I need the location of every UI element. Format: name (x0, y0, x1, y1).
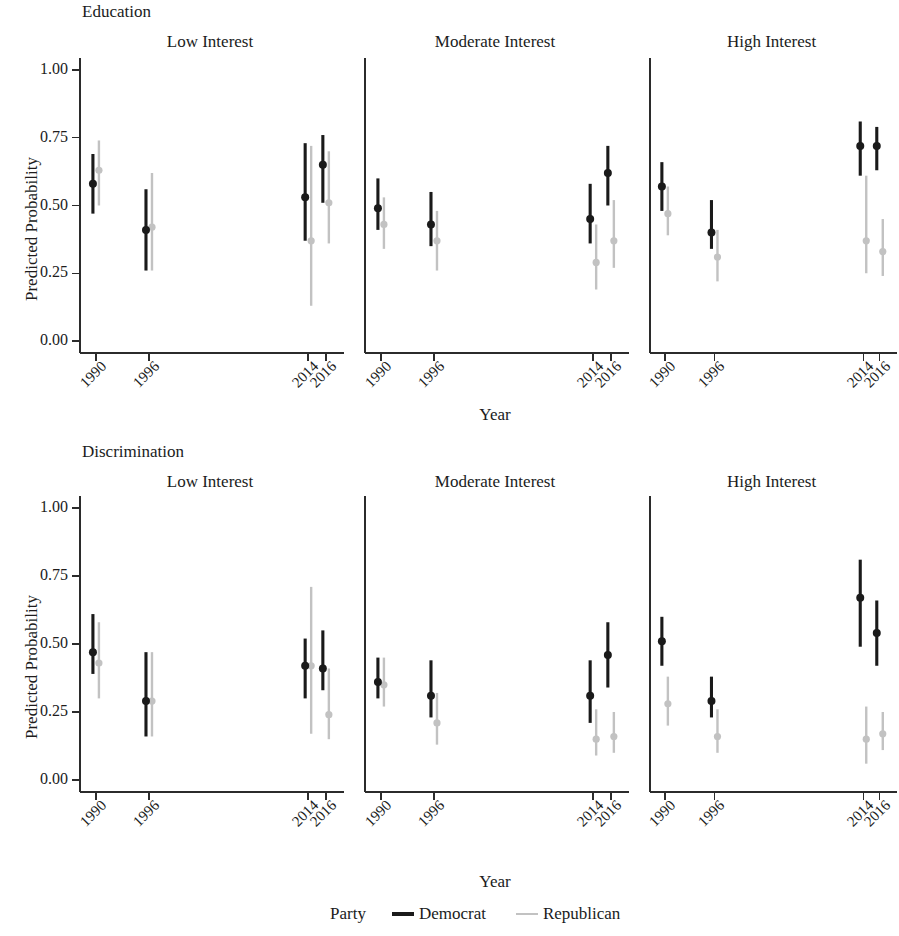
point-marker-republican-2014 (863, 736, 870, 743)
point-marker-democrat-1996 (427, 220, 435, 228)
point-marker-republican-1990 (664, 700, 671, 707)
point-marker-democrat-1996 (142, 697, 150, 705)
legend: PartyDemocratRepublican (330, 904, 650, 924)
point-marker-democrat-1990 (658, 183, 666, 191)
legend-entry-republican[interactable]: Republican (516, 904, 620, 924)
series-democrat (89, 614, 327, 736)
point-marker-democrat-2014 (301, 193, 309, 201)
figure-canvas: EducationDiscriminationLow InterestModer… (0, 0, 899, 936)
series-democrat (658, 121, 881, 248)
legend-line-icon-republican (516, 913, 538, 915)
point-marker-democrat-2014 (856, 594, 864, 602)
series-republican (95, 140, 332, 305)
series-republican (95, 587, 332, 739)
series-democrat (89, 135, 327, 271)
point-marker-democrat-2016 (319, 161, 327, 169)
point-marker-republican-1996 (433, 237, 440, 244)
panel-data-education-moderate-interest (374, 146, 618, 290)
series-republican (664, 176, 886, 282)
point-marker-republican-1990 (664, 210, 671, 217)
panel-data-discrimination-low-interest (89, 587, 333, 739)
legend-label-republican: Republican (543, 904, 620, 924)
panel-data-education-low-interest (89, 135, 333, 306)
point-marker-democrat-1996 (707, 229, 715, 237)
point-marker-democrat-1996 (427, 692, 435, 700)
series-democrat (374, 146, 612, 246)
point-marker-republican-1990 (380, 221, 387, 228)
point-marker-republican-2016 (879, 248, 886, 255)
point-marker-democrat-1990 (374, 204, 382, 212)
point-marker-democrat-2016 (873, 629, 881, 637)
point-marker-republican-2014 (593, 259, 600, 266)
point-marker-democrat-2016 (604, 169, 612, 177)
point-marker-democrat-1990 (374, 678, 382, 686)
point-marker-democrat-1990 (89, 648, 97, 656)
point-marker-democrat-2014 (301, 662, 309, 670)
point-marker-democrat-1996 (142, 226, 150, 234)
point-marker-democrat-2016 (873, 142, 881, 150)
plot-area (0, 0, 899, 936)
point-marker-republican-2016 (325, 711, 332, 718)
point-marker-republican-1996 (433, 719, 440, 726)
panel-data-education-high-interest (658, 121, 886, 281)
series-republican (380, 658, 617, 756)
point-marker-republican-2016 (879, 730, 886, 737)
legend-label-democrat: Democrat (419, 904, 486, 924)
series-republican (664, 677, 886, 764)
point-marker-republican-2016 (325, 199, 332, 206)
point-marker-democrat-1990 (658, 637, 666, 645)
point-marker-democrat-1990 (89, 180, 97, 188)
series-democrat (658, 560, 881, 718)
point-marker-republican-1996 (714, 733, 721, 740)
point-marker-republican-1990 (95, 659, 102, 666)
panel-data-discrimination-high-interest (658, 560, 886, 764)
legend-entry-democrat[interactable]: Democrat (392, 904, 486, 924)
point-marker-republican-2014 (308, 237, 315, 244)
legend-title: Party (330, 904, 366, 924)
point-marker-republican-2016 (610, 237, 617, 244)
point-marker-democrat-2014 (586, 215, 594, 223)
point-marker-democrat-2016 (319, 664, 327, 672)
series-democrat (374, 622, 612, 723)
point-marker-republican-2016 (610, 733, 617, 740)
point-marker-republican-1990 (95, 167, 102, 174)
panel-data-discrimination-moderate-interest (374, 622, 618, 755)
point-marker-democrat-1996 (707, 697, 715, 705)
point-marker-democrat-2016 (604, 651, 612, 659)
legend-line-icon-democrat (392, 912, 414, 916)
point-marker-republican-2014 (593, 736, 600, 743)
point-marker-democrat-2014 (586, 692, 594, 700)
point-marker-republican-2014 (863, 237, 870, 244)
point-marker-democrat-2014 (856, 142, 864, 150)
point-marker-republican-1996 (714, 253, 721, 260)
series-republican (380, 197, 617, 289)
